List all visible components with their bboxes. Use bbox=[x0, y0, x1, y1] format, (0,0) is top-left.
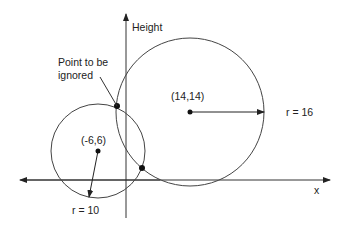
annotation-line-2: ignored bbox=[58, 69, 93, 81]
small-center-label: (-6,6) bbox=[81, 134, 106, 146]
small-radius-label: r = 10 bbox=[72, 204, 99, 216]
small-center-point bbox=[96, 149, 101, 154]
valid-intersection-point bbox=[139, 165, 145, 171]
large-radius-label: r = 16 bbox=[286, 106, 313, 118]
annotation-line-1: Point to be bbox=[58, 56, 108, 68]
height-axis-label: Height bbox=[132, 21, 162, 33]
large-center-point bbox=[188, 110, 193, 115]
small-radius-arrow bbox=[89, 151, 98, 197]
x-axis-label: x bbox=[314, 184, 319, 196]
large-center-label: (14,14) bbox=[171, 90, 204, 102]
annotation-leader-line bbox=[100, 77, 117, 106]
